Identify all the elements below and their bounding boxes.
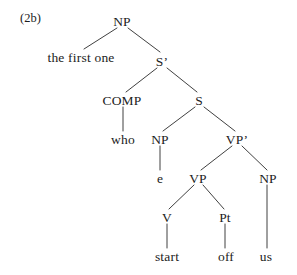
- tree-node-v: V: [162, 211, 172, 224]
- tree-node-np-root: NP: [113, 15, 131, 28]
- tree-leaf-e: e: [157, 172, 163, 185]
- tree-leaf-us: us: [260, 250, 272, 263]
- tree-node-s: S: [195, 94, 203, 107]
- edge-sbar-to-s: [167, 68, 197, 92]
- tree-node-s-bar: S’: [156, 55, 168, 68]
- tree-node-comp: COMP: [102, 94, 141, 107]
- edge-vp-to-v: [169, 185, 194, 209]
- edge-vpbar-to-vp: [201, 146, 232, 170]
- tree-node-vp-bar: VP’: [226, 133, 248, 146]
- tree-node-pt: Pt: [219, 211, 231, 224]
- edge-s-to-vpbar: [204, 107, 235, 131]
- edge-vp-to-pt: [203, 185, 224, 209]
- tree-node-np-subj: NP: [151, 133, 169, 146]
- edge-np-to-the-first-one: [84, 28, 117, 49]
- tree-leaf-off: off: [218, 250, 234, 263]
- tree-node-np-obj: NP: [259, 172, 277, 185]
- tree-leaf-the-first-one: the first one: [47, 51, 114, 64]
- edge-vpbar-to-np: [242, 146, 267, 170]
- syntax-tree-figure: (2b) NPS’COMPSNPVP’VPNPVPt the first one…: [0, 0, 297, 275]
- tree-leaf-who: who: [111, 133, 135, 146]
- tree-node-vp: VP: [189, 172, 207, 185]
- edge-np-to-sbar: [128, 28, 160, 52]
- edge-sbar-to-comp: [126, 68, 157, 92]
- tree-leaf-start: start: [155, 250, 179, 263]
- tree-branch-lines: [0, 0, 297, 275]
- edge-s-to-np: [163, 107, 195, 131]
